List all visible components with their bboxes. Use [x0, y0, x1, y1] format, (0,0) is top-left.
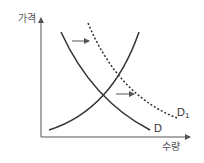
- label-d1-sub: 1: [185, 111, 190, 120]
- label-d1: D1: [177, 106, 190, 120]
- demand-curve-d: [61, 32, 150, 130]
- y-axis-label: 가격: [18, 12, 36, 24]
- x-axis-label: 수량: [162, 141, 180, 152]
- label-d1-main: D: [177, 106, 185, 118]
- diagram-canvas: 가격 수량 D D1: [0, 0, 204, 163]
- label-d: D: [154, 122, 162, 134]
- demand-curve-d1: [88, 23, 177, 118]
